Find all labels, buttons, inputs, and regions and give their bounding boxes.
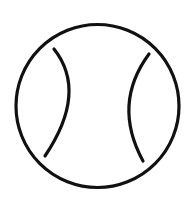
- icon-canvas: [0, 0, 193, 205]
- right-seam: [129, 54, 149, 161]
- left-seam: [45, 49, 69, 156]
- ball-outline: [16, 25, 179, 188]
- tennis-ball-icon: [0, 0, 193, 205]
